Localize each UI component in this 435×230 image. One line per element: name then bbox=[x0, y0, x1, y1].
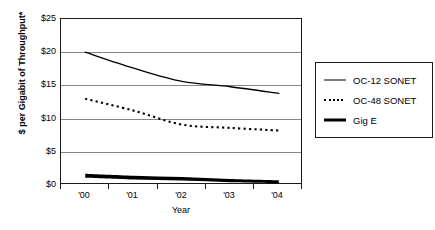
x-tick-label: '00 bbox=[64, 190, 104, 200]
legend-item-oc-12-sonet: OC-12 SONET bbox=[324, 70, 432, 90]
y-tick-label: $5 bbox=[22, 146, 56, 156]
x-tick-mark bbox=[157, 184, 158, 189]
y-tick-label: $15 bbox=[22, 79, 56, 89]
dotted-line-icon bbox=[324, 94, 346, 106]
x-tick-mark bbox=[60, 184, 61, 189]
x-tick-label: '04 bbox=[257, 190, 297, 200]
series-line-oc-48-sonet bbox=[85, 99, 279, 131]
y-tick-label: $0 bbox=[22, 179, 56, 189]
legend-label: Gig E bbox=[353, 115, 377, 126]
plot-area bbox=[60, 18, 302, 184]
chart-figure: $ per Gigabit of Throughput* $25 $20 $15… bbox=[0, 0, 435, 230]
series-line-gig-e bbox=[85, 174, 279, 184]
x-tick-mark bbox=[108, 184, 109, 189]
y-tick-label: $10 bbox=[22, 113, 56, 123]
series-plot bbox=[61, 19, 303, 185]
x-axis-title: Year bbox=[60, 205, 302, 215]
chart-legend: OC-12 SONET OC-48 SONET Gig E bbox=[315, 62, 433, 138]
series-line-oc-12-sonet bbox=[85, 52, 279, 93]
legend-label: OC-48 SONET bbox=[353, 95, 416, 106]
x-tick-label: '03 bbox=[209, 190, 249, 200]
x-tick-label: '02 bbox=[161, 190, 201, 200]
x-tick-label: '01 bbox=[112, 190, 152, 200]
x-tick-mark bbox=[253, 184, 254, 189]
y-tick-label: $20 bbox=[22, 46, 56, 56]
y-tick-label: $25 bbox=[22, 13, 56, 23]
solid-line-icon bbox=[324, 74, 346, 86]
x-tick-mark bbox=[301, 184, 302, 189]
legend-label: OC-12 SONET bbox=[353, 75, 416, 86]
y-axis-tick-labels: $25 $20 $15 $10 $5 $0 bbox=[22, 0, 56, 230]
x-tick-mark bbox=[205, 184, 206, 189]
legend-item-oc-48-sonet: OC-48 SONET bbox=[324, 90, 432, 110]
legend-item-gig-e: Gig E bbox=[324, 110, 432, 130]
thick-line-icon bbox=[324, 114, 346, 126]
